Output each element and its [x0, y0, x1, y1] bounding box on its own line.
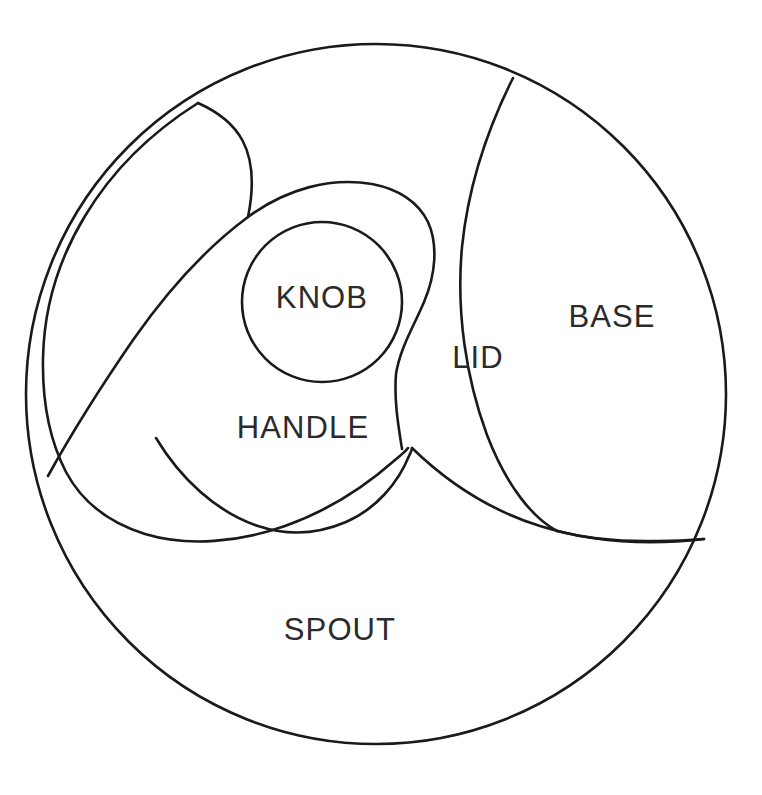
- teapot-decomposition-diagram: KNOB HANDLE LID BASE SPOUT: [0, 0, 762, 795]
- label-lid: LID: [452, 340, 504, 375]
- label-handle: HANDLE: [237, 410, 369, 445]
- label-spout: SPOUT: [284, 612, 396, 647]
- label-base: BASE: [568, 299, 655, 334]
- diagram-root: KNOB HANDLE LID BASE SPOUT: [0, 0, 762, 795]
- label-knob: KNOB: [276, 280, 368, 315]
